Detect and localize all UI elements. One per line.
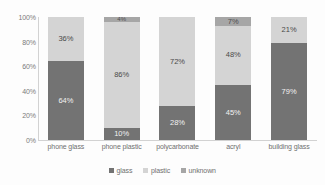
legend-label: unknown xyxy=(189,167,216,174)
bar-segment-glass[interactable]: 28% xyxy=(159,106,195,140)
legend-swatch-icon xyxy=(143,168,148,173)
bar-value-label: 64% xyxy=(58,97,73,105)
chart-legend: glassplasticunknown xyxy=(0,167,325,174)
bar-value-label: 28% xyxy=(170,119,185,127)
bar-value-label: 7% xyxy=(228,18,239,26)
legend-swatch-icon xyxy=(181,168,186,173)
x-axis-category-label: polycarbonate xyxy=(150,143,206,150)
legend-item[interactable]: glass xyxy=(109,167,132,174)
bar-segment-glass[interactable]: 45% xyxy=(215,85,251,140)
bar-value-label: 79% xyxy=(282,88,297,96)
bar-segment-glass[interactable]: 64% xyxy=(48,61,84,140)
legend-item[interactable]: unknown xyxy=(181,167,216,174)
plot-area: 64%36%10%86%4%28%72%45%48%7%79%21% xyxy=(38,17,317,140)
y-axis-tick-label: 100% xyxy=(2,14,36,21)
bar-column[interactable]: 45%48%7% xyxy=(215,17,251,140)
legend-label: plastic xyxy=(151,167,170,174)
bar-column[interactable]: 28%72% xyxy=(159,17,195,140)
bar-value-label: 10% xyxy=(114,130,129,138)
bar-segment-plastic[interactable]: 36% xyxy=(48,17,84,61)
x-axis-category-label: phone glass xyxy=(38,143,94,150)
bar-segment-plastic[interactable]: 21% xyxy=(271,17,307,43)
legend-swatch-icon xyxy=(109,168,114,173)
bar-segment-unknown[interactable]: 7% xyxy=(215,17,251,26)
x-axis-category-label: acryl xyxy=(205,143,261,150)
x-axis-category-label: building glass xyxy=(261,143,317,150)
bar-value-label: 86% xyxy=(114,71,129,79)
bar-value-label: 48% xyxy=(226,51,241,59)
bar-segment-plastic[interactable]: 72% xyxy=(159,17,195,106)
bar-column[interactable]: 64%36% xyxy=(48,17,84,140)
x-axis-category-label: phone plastic xyxy=(94,143,150,150)
x-axis-labels: phone glassphone plasticpolycarbonateacr… xyxy=(38,143,317,157)
y-axis: 100%80%60%40%20%0% xyxy=(0,0,36,185)
legend-item[interactable]: plastic xyxy=(143,167,170,174)
y-axis-tick-label: 60% xyxy=(2,63,36,70)
bar-group: 64%36%10%86%4%28%72%45%48%7%79%21% xyxy=(38,17,317,140)
bar-segment-plastic[interactable]: 86% xyxy=(104,22,140,128)
bar-value-label: 72% xyxy=(170,58,185,66)
bar-value-label: 21% xyxy=(282,26,297,34)
x-axis-line xyxy=(38,140,317,141)
y-axis-tick-label: 0% xyxy=(2,137,36,144)
bar-value-label: 45% xyxy=(226,109,241,117)
bar-segment-plastic[interactable]: 48% xyxy=(215,26,251,85)
stacked-bar-chart: 100%80%60%40%20%0% 64%36%10%86%4%28%72%4… xyxy=(0,0,325,185)
legend-label: glass xyxy=(117,167,133,174)
bar-column[interactable]: 10%86%4% xyxy=(104,17,140,140)
bar-segment-unknown[interactable]: 4% xyxy=(104,17,140,22)
bar-value-label: 4% xyxy=(117,16,126,22)
bar-value-label: 36% xyxy=(58,35,73,43)
bar-segment-glass[interactable]: 79% xyxy=(271,43,307,140)
y-axis-tick-label: 40% xyxy=(2,87,36,94)
y-axis-tick-label: 20% xyxy=(2,112,36,119)
bar-column[interactable]: 79%21% xyxy=(271,17,307,140)
bar-segment-glass[interactable]: 10% xyxy=(104,128,140,140)
y-axis-tick-label: 80% xyxy=(2,38,36,45)
